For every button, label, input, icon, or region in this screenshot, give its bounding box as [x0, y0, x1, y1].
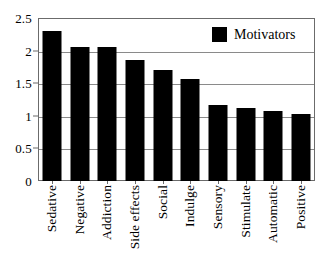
bar-slot [204, 18, 232, 181]
y-axis-tick-label: 0.5 [15, 142, 32, 155]
bar[interactable] [292, 114, 311, 181]
bar[interactable] [70, 47, 89, 181]
y-axis-tick-label: 1 [25, 109, 32, 122]
x-axis-tick-mark [218, 181, 219, 184]
bar[interactable] [209, 105, 228, 181]
x-axis-tick-mark [80, 181, 81, 184]
x-axis-tick-mark [301, 181, 302, 184]
x-axis-tick-mark [163, 181, 164, 184]
x-axis-tick-label: Stimulate [239, 185, 253, 238]
x-axis-tick-label: Indulge [184, 185, 198, 227]
legend-swatch-motivators [212, 27, 227, 42]
x-axis-tick-mark [190, 181, 191, 184]
bar-slot [260, 18, 288, 181]
x-axis-tick-label: Automatic [267, 185, 281, 243]
bar[interactable] [125, 60, 144, 181]
bar-slot [149, 18, 177, 181]
x-axis-tick-label: Social [156, 185, 170, 219]
x-axis-tick-label: Side effects [128, 185, 142, 249]
bar-chart-figure: 00.511.522.5 SedativeNegativeAddictionSi… [0, 0, 329, 264]
bar[interactable] [42, 31, 61, 181]
x-axis-label-slot: Side effects [121, 182, 149, 264]
y-axis-tick-label: 2.5 [15, 12, 32, 25]
x-axis-tick-label: Positive [294, 185, 308, 229]
y-axis-tick-label: 2 [25, 44, 32, 57]
x-axis-tick-label: Sensory [211, 185, 225, 229]
bar-slot [66, 18, 94, 181]
x-axis-tick-mark [273, 181, 274, 184]
bar-slot [177, 18, 205, 181]
x-axis-tick-mark [246, 181, 247, 184]
x-axis: SedativeNegativeAddictionSide effectsSoc… [38, 182, 315, 264]
x-axis-tick-mark [107, 181, 108, 184]
bar-slot [121, 18, 149, 181]
x-axis-label-slot: Social [149, 182, 177, 264]
x-axis-label-slot: Addiction [93, 182, 121, 264]
bar[interactable] [153, 70, 172, 181]
legend: Motivators [212, 27, 295, 42]
x-axis-label-slot: Negative [66, 182, 94, 264]
bar[interactable] [98, 47, 117, 181]
y-axis-tick-label: 1.5 [15, 77, 32, 90]
legend-label-motivators: Motivators [234, 28, 295, 42]
bar-slot [93, 18, 121, 181]
bar[interactable] [264, 111, 283, 181]
bar-slot [232, 18, 260, 181]
x-axis-tick-label: Negative [73, 185, 87, 235]
bar[interactable] [181, 79, 200, 181]
x-axis-tick-mark [52, 181, 53, 184]
bars-layer [38, 18, 315, 181]
y-axis: 00.511.522.5 [0, 18, 38, 181]
x-axis-label-slot: Indulge [177, 182, 205, 264]
x-axis-label-slot: Sedative [38, 182, 66, 264]
bar-slot [287, 18, 315, 181]
x-axis-tick-label: Addiction [100, 185, 114, 240]
bar-slot [38, 18, 66, 181]
x-axis-label-slot: Stimulate [232, 182, 260, 264]
y-axis-tick-label: 0 [25, 175, 32, 188]
x-axis-tick-label: Sedative [45, 185, 59, 232]
x-axis-tick-mark [135, 181, 136, 184]
x-axis-label-slot: Sensory [204, 182, 232, 264]
x-axis-label-slot: Automatic [260, 182, 288, 264]
x-axis-label-slot: Positive [287, 182, 315, 264]
bar[interactable] [236, 108, 255, 181]
